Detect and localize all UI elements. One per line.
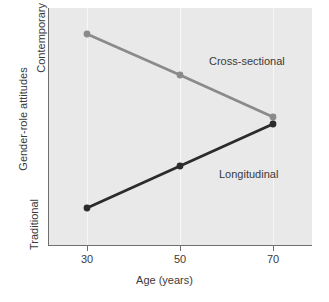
longitudinal-point-70	[270, 121, 277, 128]
cross-sectional-point-30	[84, 31, 91, 38]
longitudinal-point-50	[177, 163, 184, 170]
series-lines	[0, 0, 329, 302]
longitudinal-point-30	[84, 205, 91, 212]
cross-sectional-point-50	[177, 72, 184, 79]
series-label-longitudinal: Longitudinal	[219, 168, 278, 180]
series-label-cross-sectional: Cross-sectional	[209, 55, 285, 67]
chart-figure: 30 50 70 Age (years) Gender-role attitud…	[0, 0, 329, 302]
cross-sectional-point-70	[270, 114, 277, 121]
